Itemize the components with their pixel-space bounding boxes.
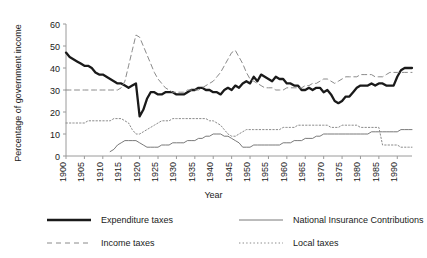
x-tick-label-1950: 1950 (242, 162, 252, 182)
legend-item-national-insurance-contributions[interactable]: National Insurance Contributions (238, 209, 427, 231)
x-axis-ticks: 1900190519101915192019251930193519401945… (58, 156, 399, 182)
y-tick-label-50: 50 (50, 42, 60, 52)
x-tick-label-1940: 1940 (205, 162, 215, 182)
legend-swatch-dotted (238, 237, 284, 249)
y-tick-label-0: 0 (55, 152, 60, 162)
x-tick-label-1975: 1975 (334, 162, 344, 182)
legend-label-local-taxes: Local taxes (293, 238, 339, 248)
y-tick-label-60: 60 (50, 20, 60, 30)
x-tick-label-1900: 1900 (58, 162, 68, 182)
y-tick-label-30: 30 (50, 86, 60, 96)
legend-label-expenditure-taxes: Expenditure taxes (101, 215, 173, 225)
legend-swatch-dashed (46, 237, 92, 249)
chart-series-group (66, 35, 412, 152)
x-tick-label-1945: 1945 (224, 162, 234, 182)
legend-item-local-taxes[interactable]: Local taxes (238, 232, 427, 254)
x-tick-label-1920: 1920 (132, 162, 142, 182)
legend-label-national-insurance-contributions: National Insurance Contributions (293, 215, 424, 225)
chart-legend: Expenditure taxes National Insurance Con… (46, 208, 427, 254)
y-tick-label-40: 40 (50, 64, 60, 74)
x-tick-label-1915: 1915 (113, 162, 123, 182)
legend-swatch-thin-solid (238, 214, 284, 226)
y-tick-label-20: 20 (50, 108, 60, 118)
legend-label-income-taxes: Income taxes (101, 238, 155, 248)
x-tick-label-1990: 1990 (389, 162, 399, 182)
x-tick-label-1970: 1970 (316, 162, 326, 182)
legend-item-income-taxes[interactable]: Income taxes (46, 232, 238, 254)
x-tick-label-1980: 1980 (352, 162, 362, 182)
x-tick-label-1925: 1925 (150, 162, 160, 182)
y-axis-ticks: 0102030405060 (50, 20, 66, 162)
x-tick-label-1905: 1905 (76, 162, 86, 182)
series-line-expenditure-taxes (66, 53, 412, 117)
x-tick-label-1965: 1965 (297, 162, 307, 182)
x-tick-label-1955: 1955 (260, 162, 270, 182)
x-tick-label-1985: 1985 (371, 162, 381, 182)
x-tick-label-1930: 1930 (168, 162, 178, 182)
legend-swatch-thick-solid (46, 214, 92, 226)
y-tick-label-10: 10 (50, 130, 60, 140)
x-tick-label-1935: 1935 (187, 162, 197, 182)
x-tick-label-1960: 1960 (279, 162, 289, 182)
series-line-national-insurance-contributions (110, 130, 412, 152)
chart-figure: Percentage of government income 01020304… (0, 0, 427, 258)
x-tick-label-1910: 1910 (95, 162, 105, 182)
legend-item-expenditure-taxes[interactable]: Expenditure taxes (46, 209, 238, 231)
x-axis-title: Year (0, 190, 427, 200)
